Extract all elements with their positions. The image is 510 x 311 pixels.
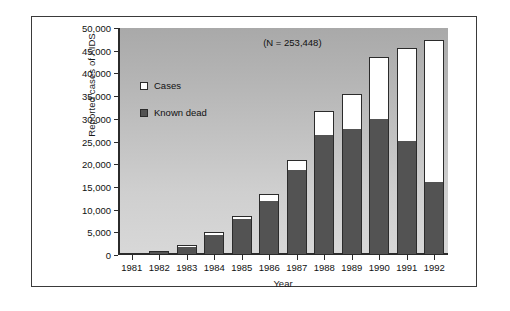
bar-1987 [287, 160, 307, 255]
y-tick [114, 96, 118, 97]
bar-1983 [177, 245, 197, 255]
x-tick [379, 255, 380, 260]
y-tick-label: 10,000 [82, 204, 111, 215]
y-tick [114, 73, 118, 74]
bar-1992 [424, 40, 444, 255]
chart-frame: Reported cases of AIDS 05,00010,00015,00… [31, 16, 477, 287]
legend-swatch-cases-icon [140, 82, 148, 90]
plot-area: 05,00010,00015,00020,00025,00030,00035,0… [118, 28, 448, 255]
bar-segment-known-dead [370, 119, 388, 254]
x-tick-label: 1983 [176, 262, 197, 273]
x-tick [434, 255, 435, 260]
x-tick [187, 255, 188, 260]
bar-segment-known-dead [343, 129, 361, 254]
bar-1989 [342, 94, 362, 255]
y-tick-label: 40,000 [82, 68, 111, 79]
y-tick-label: 45,000 [82, 45, 111, 56]
y-tick-label: 5,000 [87, 227, 111, 238]
y-tick [114, 255, 118, 256]
y-tick [114, 232, 118, 233]
y-tick [114, 164, 118, 165]
bar-segment-known-dead [150, 252, 168, 254]
y-tick-label: 20,000 [82, 159, 111, 170]
legend-item-cases: Cases [140, 80, 181, 91]
sample-size-annotation: (N = 253,448) [263, 37, 321, 48]
x-axis-title: Year [118, 278, 448, 289]
y-tick [114, 28, 118, 29]
bar-1981 [122, 253, 142, 255]
legend-label-cases: Cases [154, 80, 181, 91]
x-tick [297, 255, 298, 260]
bar-segment-known-dead [288, 170, 306, 254]
x-tick [132, 255, 133, 260]
bar-1991 [397, 48, 417, 255]
x-tick-label: 1988 [314, 262, 335, 273]
y-tick [114, 119, 118, 120]
x-tick-label: 1981 [121, 262, 142, 273]
legend-item-known-dead: Known dead [140, 107, 207, 118]
x-tick-label: 1990 [369, 262, 390, 273]
x-tick-label: 1989 [341, 262, 362, 273]
bar-segment-known-dead [425, 182, 443, 254]
y-tick-label: 15,000 [82, 181, 111, 192]
bar-1982 [149, 251, 169, 255]
y-axis-line [118, 28, 120, 255]
y-tick-label: 30,000 [82, 113, 111, 124]
bar-1988 [314, 111, 334, 255]
y-tick [114, 51, 118, 52]
y-tick-label: 50,000 [82, 23, 111, 34]
x-tick [324, 255, 325, 260]
x-tick-label: 1985 [231, 262, 252, 273]
x-tick [407, 255, 408, 260]
x-tick-label: 1986 [259, 262, 280, 273]
x-tick-label: 1992 [424, 262, 445, 273]
y-tick-label: 25,000 [82, 136, 111, 147]
bar-segment-known-dead [205, 235, 223, 254]
y-tick-label: 35,000 [82, 91, 111, 102]
bar-segment-known-dead [398, 141, 416, 254]
bar-segment-known-dead [315, 135, 333, 254]
x-tick-label: 1982 [149, 262, 170, 273]
x-tick [242, 255, 243, 260]
x-tick [352, 255, 353, 260]
y-tick [114, 210, 118, 211]
x-tick-label: 1984 [204, 262, 225, 273]
x-tick [214, 255, 215, 260]
x-tick [159, 255, 160, 260]
y-tick-label: 0 [106, 250, 111, 261]
x-tick-label: 1987 [286, 262, 307, 273]
bar-segment-known-dead [233, 219, 251, 254]
bar-1990 [369, 57, 389, 255]
bar-1984 [204, 232, 224, 255]
x-tick-label: 1991 [396, 262, 417, 273]
bar-1985 [232, 216, 252, 255]
bar-segment-known-dead [178, 247, 196, 254]
legend-label-known-dead: Known dead [154, 107, 207, 118]
y-tick [114, 142, 118, 143]
legend-swatch-known-dead-icon [140, 109, 148, 117]
x-tick [269, 255, 270, 260]
bar-1986 [259, 194, 279, 255]
y-tick [114, 187, 118, 188]
bar-segment-known-dead [260, 201, 278, 254]
